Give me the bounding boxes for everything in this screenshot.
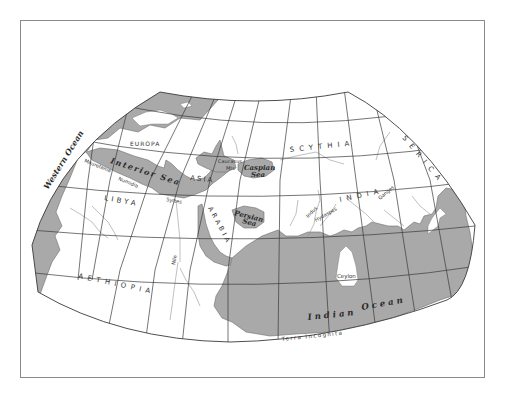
label-caucasus: Caucasus bbox=[218, 158, 242, 164]
label-europa: EUROPA bbox=[130, 140, 160, 147]
label-ceylon: Ceylon bbox=[337, 273, 356, 280]
label-mts: Mts bbox=[226, 165, 235, 171]
world-map: Western Ocean EUROPA Interior Sea Mauret… bbox=[0, 0, 505, 393]
label-caspian-sea: Sea bbox=[251, 170, 266, 179]
